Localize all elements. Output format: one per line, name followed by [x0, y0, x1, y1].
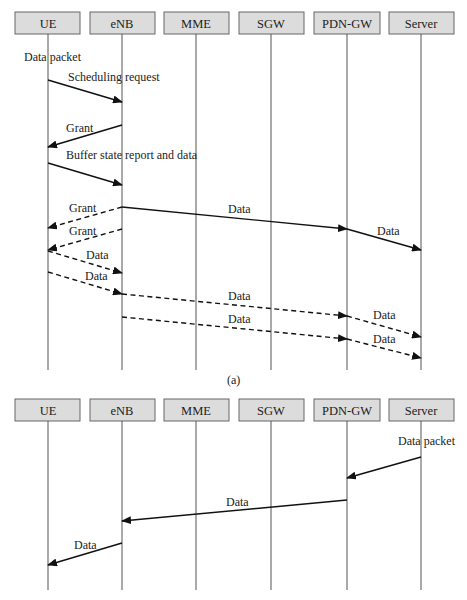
caption-a: (a) — [227, 373, 240, 387]
message-label: Data — [85, 269, 108, 283]
participant-sgw: SGW — [239, 399, 304, 590]
message-label: Grant — [69, 201, 97, 215]
diagram-b: UE eNB MME SGW PDN-GW Server Data — [15, 399, 456, 590]
diagram-a: UE eNB MME SGW PDN-GW Server — [15, 12, 454, 387]
message-label: Data — [228, 202, 251, 216]
participant-label: PDN-GW — [322, 404, 372, 418]
participant-pdn-gw: PDN-GW — [314, 399, 380, 590]
participant-mme: MME — [164, 12, 229, 370]
note-data-packet: Data packet — [24, 50, 82, 64]
participant-server: Server — [389, 12, 454, 370]
participant-label: Server — [405, 17, 438, 31]
note-data-packet: Data packet — [398, 434, 456, 448]
participant-enb: eNB — [90, 399, 155, 590]
participant-label: SGW — [257, 17, 285, 31]
message-label: Grant — [69, 224, 97, 238]
message-label: Data — [86, 248, 109, 262]
message-label: Grant — [66, 121, 94, 135]
participant-server: Server — [389, 399, 454, 590]
message-label: Data — [74, 538, 97, 552]
participant-ue: UE — [15, 12, 80, 370]
participant-enb: eNB — [90, 12, 155, 370]
arrow-server-pdngw — [347, 457, 421, 478]
message-label: Scheduling request — [68, 70, 160, 84]
participant-label: UE — [40, 17, 57, 31]
participant-mme: MME — [164, 399, 229, 590]
participant-ue: UE — [15, 399, 80, 590]
participant-label: eNB — [111, 404, 134, 418]
participant-label: UE — [40, 404, 57, 418]
message-label: Data — [373, 332, 396, 346]
message-label: Data — [377, 224, 400, 238]
participant-label: MME — [181, 404, 211, 418]
participant-label: Server — [405, 404, 438, 418]
message-label: Buffer state report and data — [66, 148, 198, 162]
message-label: Data — [226, 495, 249, 509]
message-label: Data — [373, 308, 396, 322]
sequence-diagrams: UE eNB MME SGW PDN-GW Server — [0, 0, 467, 600]
arrow-buffer-state-report — [48, 163, 122, 185]
participant-label: MME — [181, 17, 211, 31]
participant-label: eNB — [111, 17, 134, 31]
message-label: Data — [228, 289, 251, 303]
participant-label: PDN-GW — [322, 17, 372, 31]
message-label: Data — [228, 312, 251, 326]
participant-label: SGW — [257, 404, 285, 418]
